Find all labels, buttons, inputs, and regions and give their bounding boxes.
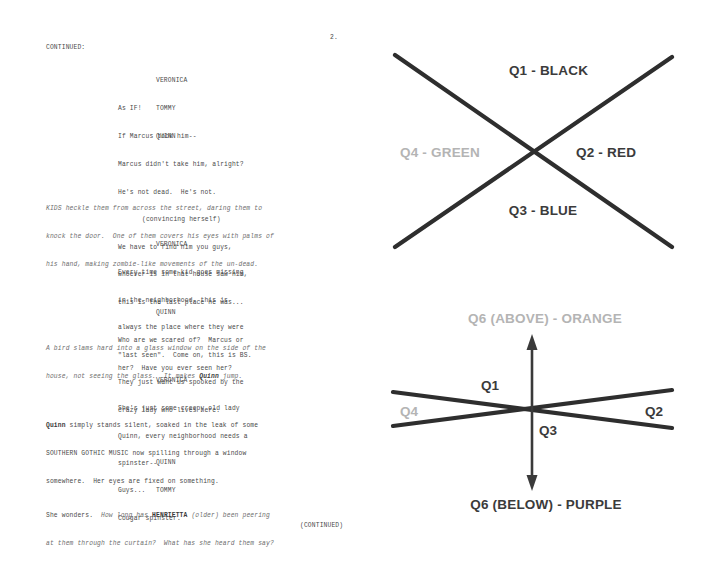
quadrant-diagrams-pane: Q1 - BLACK Q2 - RED Q4 - GREEN Q3 - BLUE… (380, 0, 717, 577)
arrow-head-down (527, 475, 538, 491)
label-q1-lower: Q1 (481, 378, 499, 393)
action-line: Quinn simply stands silent, soaked in th… (46, 421, 258, 430)
character-cue: VERONICA (156, 76, 187, 85)
page-number: 2. (330, 33, 338, 42)
character-cue: TOMMY (156, 104, 197, 113)
character-name-inline: HENRIETTA (152, 512, 187, 519)
label-q6-above-orange: Q6 (ABOVE) - ORANGE (380, 311, 710, 326)
character-cue: QUINN (156, 458, 176, 467)
label-q4-green: Q4 - GREEN (400, 145, 480, 160)
label-q2-red: Q2 - RED (576, 145, 636, 160)
continued-header: CONTINUED: (46, 43, 85, 52)
action-line: She wonders. How long has HENRIETTA (old… (46, 511, 274, 520)
footer-continued: (CONTINUED) (300, 521, 343, 530)
character-cue: VERONICA (156, 240, 252, 249)
action-text: She wonders. (46, 512, 101, 519)
dialogue-line: Every time some kid goes missing (118, 268, 252, 277)
action-line: at them through the curtain? What has sh… (46, 539, 274, 548)
label-q1-black: Q1 - BLACK (380, 63, 717, 78)
action-text-italic: How long has (101, 512, 152, 519)
action-text: simply stands silent, soaked in the leak… (66, 422, 259, 429)
label-q3-blue: Q3 - BLUE (380, 203, 706, 218)
character-cue: QUINN (156, 132, 248, 141)
character-name-inline: Quinn (46, 422, 66, 429)
character-cue: VERONICA (156, 376, 248, 385)
action-text-italic: (older) (187, 512, 222, 519)
diagram-svg (380, 0, 717, 577)
label-q3-lower: Q3 (539, 423, 557, 438)
character-cue: QUINN (156, 308, 244, 317)
arrow-head-up (527, 334, 538, 350)
label-q6-below-purple: Q6 (BELOW) - PURPLE (380, 497, 712, 512)
action-block-henrietta: She wonders. How long has HENRIETTA (old… (46, 493, 274, 567)
screenplay-page: 2. CONTINUED: VERONICA As IF! TOMMY If M… (0, 0, 380, 577)
action-text-italic: been peering (223, 512, 270, 519)
label-q4-lower: Q4 (400, 404, 418, 419)
action-line: KIDS heckle them from across the street,… (46, 204, 274, 213)
label-q2-lower: Q2 (645, 404, 663, 419)
dialogue-line: Marcus didn't take him, alright? (118, 160, 248, 169)
action-line: A bird slams hard into a glass window on… (46, 344, 266, 353)
